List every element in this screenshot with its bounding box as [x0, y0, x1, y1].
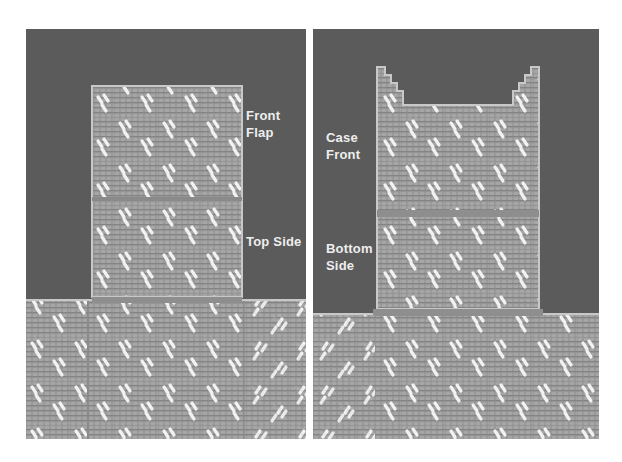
label-line: Flap — [246, 124, 280, 141]
front-flap-label: Front Flap — [246, 107, 280, 141]
front-flap-piece — [92, 86, 242, 199]
bottom-side-piece — [377, 212, 539, 309]
label-line: Front — [326, 146, 360, 163]
right-canvas-pieces — [313, 29, 599, 439]
top-side-label: Top Side — [246, 233, 302, 250]
label-line: Front — [246, 107, 280, 124]
right-photo: Case Front Bottom Side — [313, 29, 599, 439]
label-line: Bottom — [326, 240, 373, 257]
label-line: Top Side — [246, 233, 302, 250]
label-line: Case — [326, 129, 360, 146]
bottom-side-label: Bottom Side — [326, 240, 373, 274]
label-line: Side — [326, 257, 373, 274]
left-photo: Front Flap Top Side — [26, 29, 306, 439]
case-front-piece — [377, 67, 539, 212]
top-side-piece — [92, 199, 242, 297]
case-front-label: Case Front — [326, 129, 360, 163]
